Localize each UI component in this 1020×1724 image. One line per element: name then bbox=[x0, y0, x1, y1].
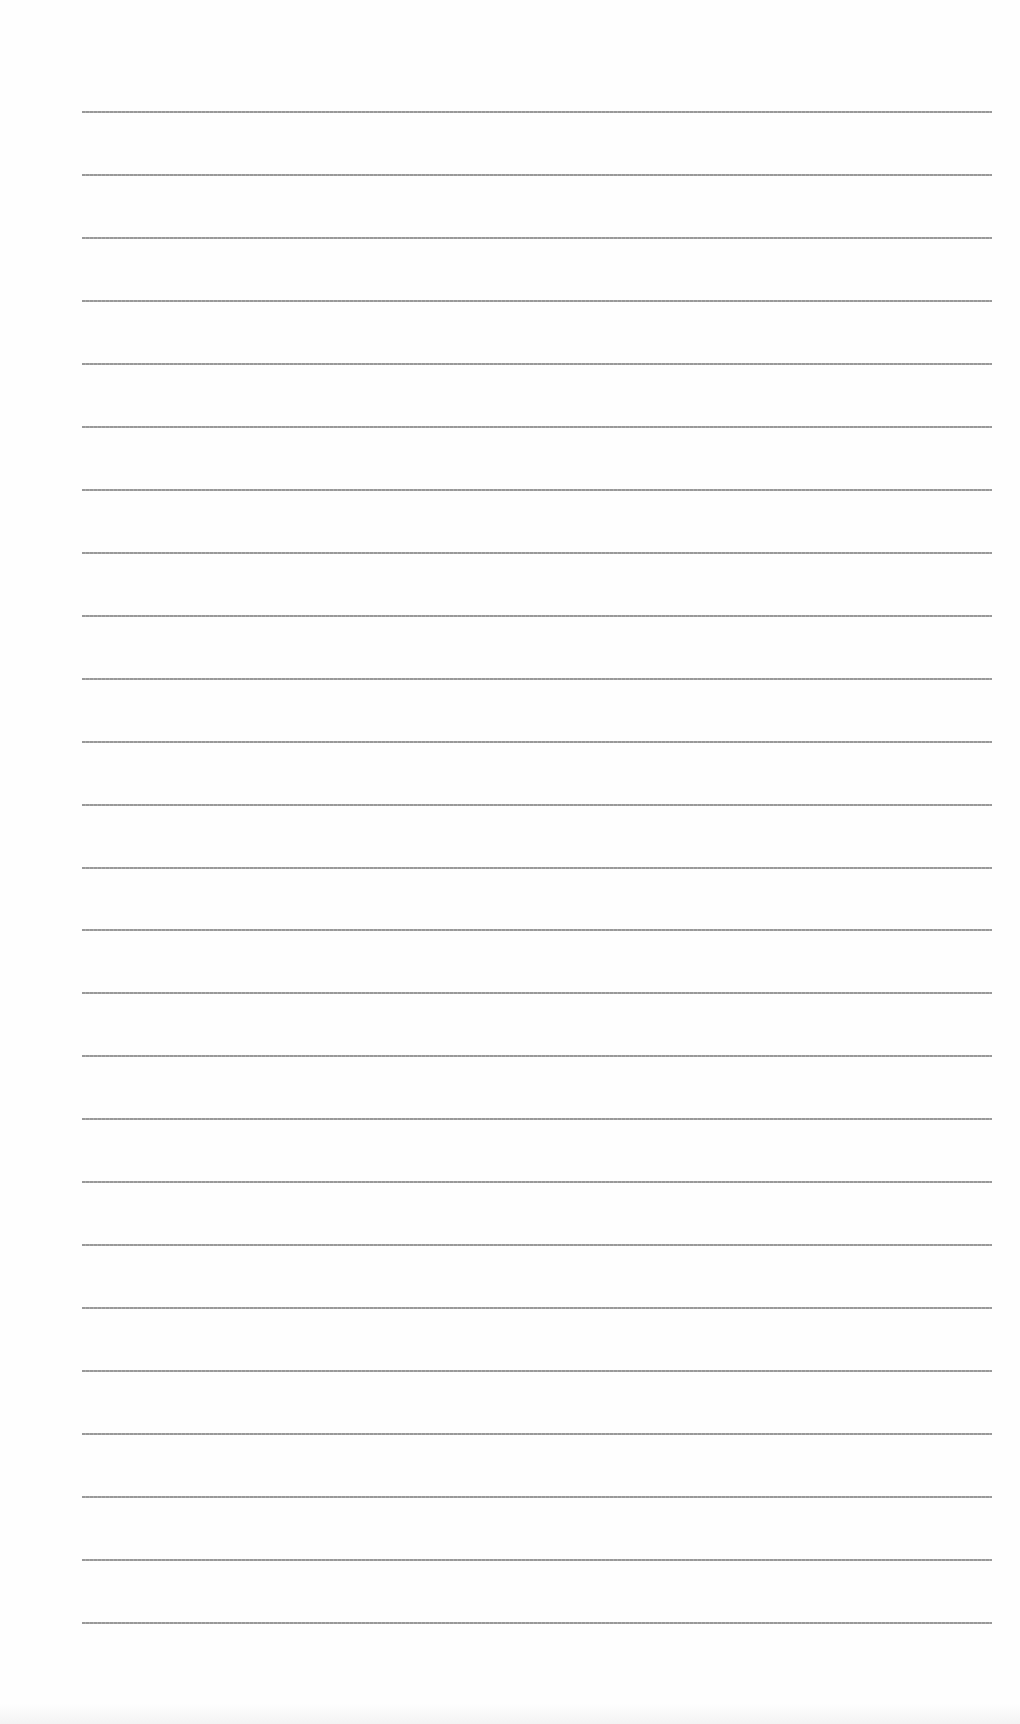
ruled-line bbox=[82, 363, 992, 365]
ruled-line bbox=[82, 1118, 992, 1120]
ruled-line bbox=[82, 1181, 992, 1183]
ruled-line bbox=[82, 1244, 992, 1246]
ruled-line bbox=[82, 237, 992, 239]
ruled-line bbox=[82, 552, 992, 554]
ruled-line bbox=[82, 867, 992, 869]
page-bottom-shadow bbox=[0, 1704, 1020, 1724]
ruled-line bbox=[82, 615, 992, 617]
ruled-line bbox=[82, 489, 992, 491]
ruled-line bbox=[82, 992, 992, 994]
ruled-line bbox=[82, 300, 992, 302]
ruled-line bbox=[82, 1559, 992, 1561]
ruled-line bbox=[82, 1496, 992, 1498]
ruled-line bbox=[82, 1370, 992, 1372]
ruled-line bbox=[82, 1622, 992, 1624]
ruled-line bbox=[82, 804, 992, 806]
ruled-line bbox=[82, 174, 992, 176]
ruled-line bbox=[82, 1307, 992, 1309]
ruled-line bbox=[82, 1055, 992, 1057]
lined-paper-page bbox=[0, 0, 1020, 1724]
ruled-line bbox=[82, 929, 992, 931]
ruled-line bbox=[82, 1433, 992, 1435]
ruled-line bbox=[82, 111, 992, 113]
ruled-line bbox=[82, 741, 992, 743]
ruled-line bbox=[82, 678, 992, 680]
ruled-line bbox=[82, 426, 992, 428]
